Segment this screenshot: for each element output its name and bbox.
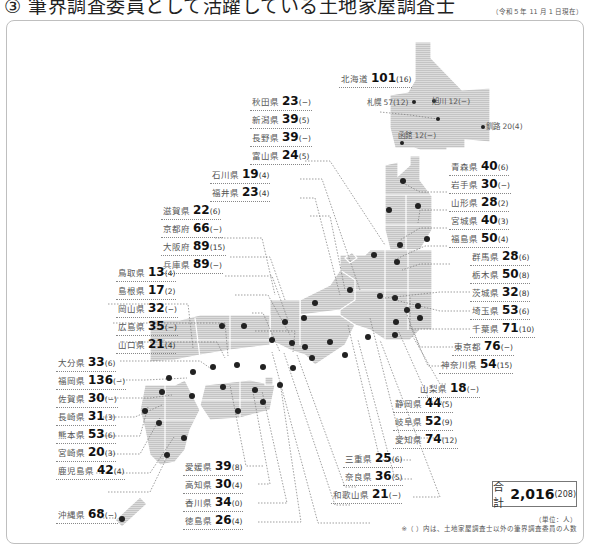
- city-label-asahikawa: 旭川 12(−): [432, 97, 470, 107]
- label-kagoshima: 鹿児島県42(4): [56, 464, 125, 480]
- label-shimane: 島根県17(2): [116, 284, 176, 300]
- label-kyoto: 京都府66(−): [161, 222, 223, 238]
- total-paren: (208): [554, 490, 576, 499]
- label-yamagata: 山形県28(2): [449, 196, 509, 212]
- label-tokushima: 徳島県26(4): [183, 514, 243, 530]
- label-toyama: 富山県24(5): [250, 149, 310, 165]
- footnote: ※（ ）内は、土地家屋調査士以外の筆界調査委員の人数: [401, 523, 577, 533]
- label-aichi: 愛知県74(12): [393, 433, 458, 449]
- label-ishikawa: 石川県19(4): [210, 168, 270, 184]
- total-label: 合計: [493, 478, 505, 510]
- city-label-hakodate: 函館 12(−): [398, 131, 436, 141]
- label-chiba: 千葉県71(10): [470, 322, 535, 338]
- label-saga: 佐賀県30(−): [56, 392, 118, 408]
- label-miyagi: 宮城県40(3): [449, 214, 509, 230]
- label-kochi: 高知県30(4): [183, 478, 243, 494]
- label-yamaguchi: 山口県21(4): [116, 338, 176, 354]
- label-okinawa: 沖縄県68(−): [56, 508, 118, 524]
- label-fukushima: 福島県50(4): [449, 232, 509, 248]
- label-saitama: 埼玉県53(6): [470, 304, 530, 320]
- city-label-sapporo: 札幌 57(12): [367, 98, 408, 108]
- label-fukui: 福井県23(4): [210, 186, 270, 202]
- label-ibaraki: 茨城県32(8): [470, 286, 530, 302]
- label-kumamoto: 熊本県53(6): [56, 428, 116, 444]
- total-value: 2,016: [510, 486, 554, 502]
- label-wakayama: 和歌山県21(−): [331, 488, 402, 504]
- label-shizuoka: 静岡県44(5): [393, 397, 453, 413]
- label-iwate: 岩手県30(−): [449, 178, 511, 194]
- city-label-kushiro: 釧路 20(4): [486, 122, 523, 132]
- label-nagano: 長野県39(−): [250, 131, 312, 147]
- label-nara: 奈良県36(5): [343, 470, 403, 486]
- label-miyazaki: 宮崎県20(3): [56, 446, 116, 462]
- label-tochigi: 栃木県50(8): [470, 268, 530, 284]
- label-fukuoka: 福岡県136(−): [56, 374, 126, 390]
- label-osaka: 大阪府89(15): [161, 240, 226, 256]
- label-akita: 秋田県23(−): [250, 95, 312, 111]
- label-kagawa: 香川県34(0): [183, 496, 243, 512]
- label-ehime: 愛媛県39(8): [183, 460, 243, 476]
- label-oita: 大分県33(6): [56, 356, 116, 372]
- label-yamanashi: 山梨県18(−): [418, 382, 480, 398]
- label-niigata: 新潟県39(5): [250, 113, 310, 129]
- label-okayama: 岡山県32(−): [116, 302, 178, 318]
- label-kanagawa: 神奈川県54(15): [439, 358, 513, 374]
- label-shiga: 滋賀県22(6): [161, 204, 221, 220]
- label-tottori: 鳥取県13(4): [116, 266, 176, 282]
- label-aomori: 青森県40(6): [449, 160, 509, 176]
- label-hokkaido: 北海道101(16): [339, 72, 412, 88]
- label-gunma: 群馬県28(6): [470, 250, 530, 266]
- label-mie: 三重県25(6): [343, 452, 403, 468]
- label-hiroshima: 広島県35(−): [116, 320, 178, 336]
- label-nagasaki: 長崎県31(3): [56, 410, 116, 426]
- total-box: 合計 2,016 (208): [492, 481, 577, 507]
- label-tokyo: 東京都76(−): [452, 340, 514, 356]
- label-gifu: 岐阜県52(9): [393, 415, 453, 431]
